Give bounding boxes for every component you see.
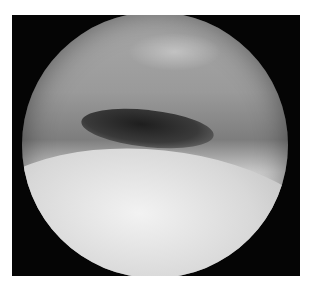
upper-tissue-highlight (128, 33, 221, 70)
dark-cavity (79, 104, 215, 155)
